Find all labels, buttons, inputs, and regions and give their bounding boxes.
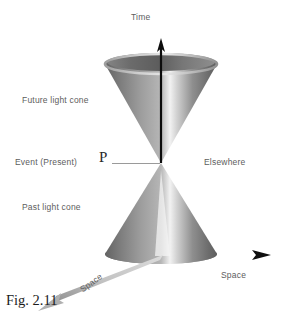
label-future-light-cone: Future light cone [22, 95, 89, 105]
label-elsewhere: Elsewhere [204, 157, 246, 167]
figure-caption: Fig. 2.11 [6, 292, 57, 309]
label-event-point-p: P [99, 149, 107, 166]
label-space-horizontal: Space [221, 270, 246, 280]
space-axis-diagonal-shaft [53, 255, 163, 303]
label-time: Time [131, 12, 150, 22]
label-past-light-cone: Past light cone [22, 202, 81, 212]
label-event-present: Event (Present) [15, 157, 77, 167]
past-light-cone [105, 163, 217, 264]
